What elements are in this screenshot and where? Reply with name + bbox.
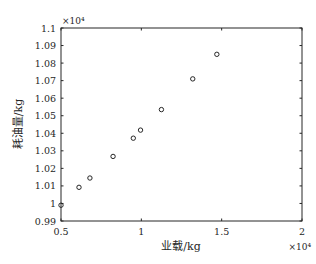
y-tick-label: 1.08	[35, 58, 56, 69]
data-point	[77, 185, 81, 189]
x-tick-label: 2	[299, 226, 305, 237]
data-point	[138, 128, 142, 132]
y-axis-ticks: 0.9911.011.021.031.041.051.061.071.081.0…	[35, 23, 302, 227]
y-tick-label: 1.1	[41, 23, 56, 34]
data-point	[159, 107, 163, 111]
x-tick-label: 1.5	[214, 226, 229, 237]
x-multiplier: ×10⁴	[288, 242, 311, 252]
y-tick-label: 0.99	[35, 216, 56, 227]
y-multiplier: ×10⁴	[62, 16, 85, 26]
data-point	[191, 77, 195, 81]
data-point	[111, 154, 115, 158]
x-tick-label: 1	[138, 226, 144, 237]
y-tick-label: 1	[50, 198, 56, 209]
y-tick-label: 1.06	[35, 93, 56, 104]
data-points	[59, 52, 219, 207]
data-point	[131, 136, 135, 140]
y-tick-label: 1.07	[35, 75, 56, 86]
x-axis-label: 业载/kg	[161, 240, 200, 253]
plot-frame	[61, 28, 302, 221]
y-tick-label: 1.01	[35, 180, 56, 191]
y-axis-label: 耗油量/kg	[11, 99, 25, 149]
y-tick-label: 1.04	[35, 128, 56, 139]
y-tick-label: 1.09	[35, 40, 56, 51]
y-tick-label: 1.03	[35, 145, 56, 156]
data-point	[88, 176, 92, 180]
x-tick-label: 0.5	[53, 226, 68, 237]
y-tick-label: 1.05	[35, 110, 56, 121]
data-point	[215, 52, 219, 56]
x-axis-ticks: 0.511.52	[53, 28, 305, 237]
y-tick-label: 1.02	[35, 163, 56, 174]
scatter-chart: 0.9911.011.021.031.041.051.061.071.081.0…	[0, 0, 316, 264]
